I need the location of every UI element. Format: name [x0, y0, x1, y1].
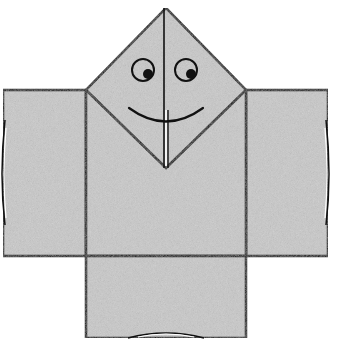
lower-panel — [86, 256, 246, 338]
right-arm — [246, 90, 328, 256]
right-eye-pupil — [186, 69, 196, 79]
left-arm — [3, 90, 86, 256]
paper-fill-group — [3, 8, 328, 338]
origami-figure — [0, 0, 337, 348]
left-eye-pupil — [143, 69, 153, 79]
